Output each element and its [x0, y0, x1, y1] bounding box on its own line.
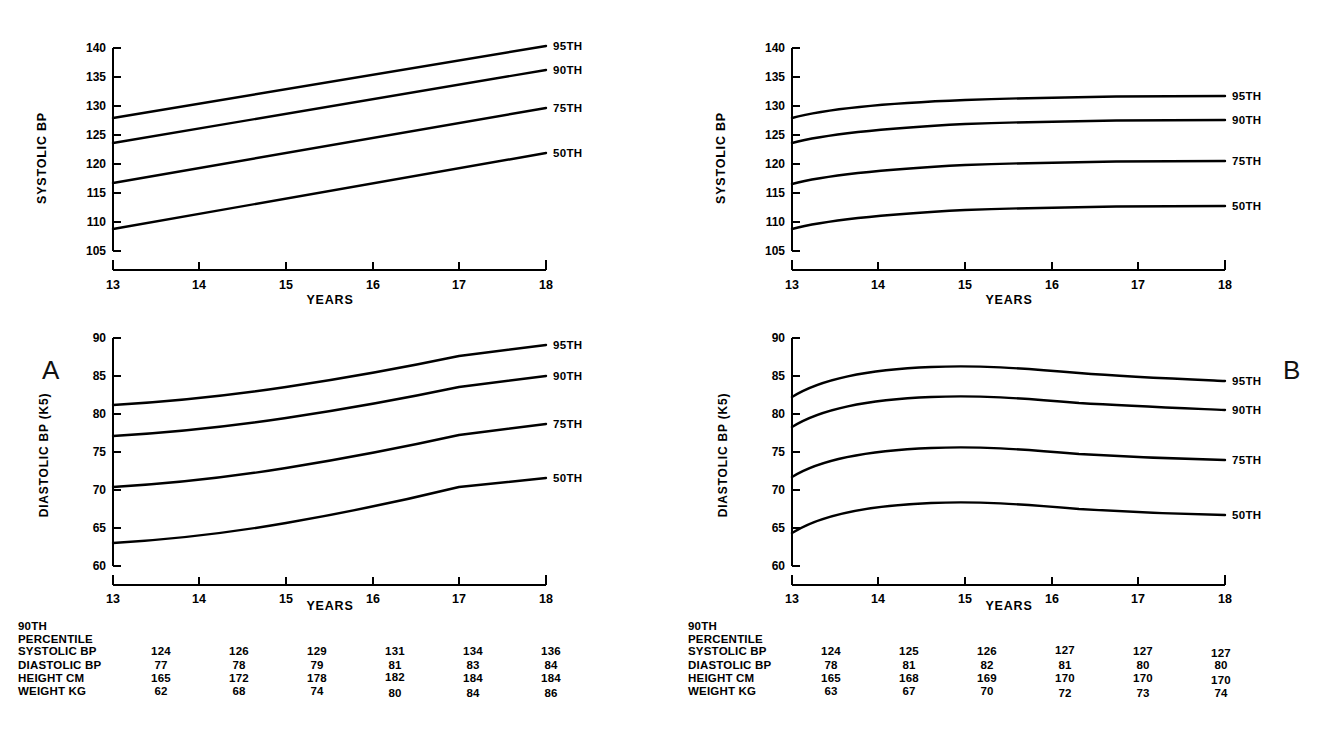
y-tick-label: 80	[93, 407, 107, 421]
row-label-systolic: SYSTOLIC BP	[688, 645, 792, 658]
y-tick-label: 140	[86, 41, 106, 55]
x-tick-label: 15	[279, 278, 293, 292]
x-tick-label: 13	[785, 592, 799, 606]
x-tick-label: 15	[279, 592, 293, 606]
panel-a: A SYSTOLIC BP 105 110 115 120 125 130 13…	[0, 0, 669, 738]
series-line-90th	[792, 396, 1225, 427]
y-tick-label: 115	[87, 186, 107, 200]
table-cell: 62	[122, 685, 200, 698]
table-cell: 127	[1104, 645, 1182, 658]
table-cell: 124	[122, 645, 200, 658]
table-cell: 165	[122, 672, 200, 685]
x-axis-label: YEARS	[985, 599, 1032, 610]
y-axis-label: DIASTOLIC BP (K5)	[716, 393, 730, 518]
series-line-75th	[113, 424, 546, 487]
data-table-panel-a: 90TH PERCENTILE SYSTOLIC BP 124 126 129 …	[18, 620, 590, 699]
table-cell: 134	[434, 645, 512, 658]
table-cell: 184	[434, 672, 512, 685]
y-tick-label: 90	[772, 331, 786, 345]
table-cell: 70	[948, 685, 1026, 698]
table-title-line1: 90TH	[18, 620, 590, 633]
table-cell: 67	[870, 685, 948, 698]
x-tick-label: 18	[539, 592, 553, 606]
series-label-75th: 75TH	[1232, 454, 1261, 466]
y-tick-label: 60	[772, 559, 786, 573]
table-cell: 84	[434, 687, 512, 700]
table-cell: 127	[1182, 647, 1260, 660]
chart-svg-panel-a-diastolic: DIASTOLIC BP (K5) 60 65 70 75 80 85 90	[0, 305, 640, 610]
x-tick-label: 14	[192, 278, 206, 292]
table-cell: 184	[512, 672, 590, 685]
table-cell: 81	[870, 659, 948, 672]
table-cell: 81	[356, 659, 434, 672]
table-title-line2: PERCENTILE	[688, 633, 1260, 646]
y-axis-ticks	[792, 48, 800, 251]
table-cell: 125	[870, 645, 948, 658]
y-tick-label: 90	[93, 331, 107, 345]
x-tick-label: 17	[452, 278, 466, 292]
series-label-95th: 95TH	[553, 40, 582, 52]
table-cell: 80	[356, 687, 434, 700]
series-line-90th	[113, 376, 546, 436]
data-table-panel-b: 90TH PERCENTILE SYSTOLIC BP 124 125 126 …	[688, 620, 1260, 699]
series-line-50th	[113, 153, 546, 229]
x-tick-label: 14	[871, 278, 885, 292]
series-label-75th: 75TH	[1232, 155, 1261, 167]
x-tick-label: 13	[785, 278, 799, 292]
x-tick-label: 13	[106, 278, 120, 292]
table-cell: 165	[792, 672, 870, 685]
x-axis-ticks	[792, 575, 1225, 585]
y-tick-label: 110	[87, 215, 107, 229]
series-line-50th	[113, 478, 546, 543]
x-tick-label: 16	[366, 592, 380, 606]
y-tick-label: 60	[93, 559, 107, 573]
y-tick-label: 120	[86, 157, 106, 171]
y-tick-label: 75	[93, 445, 107, 459]
y-tick-label: 80	[772, 407, 786, 421]
y-tick-label: 140	[765, 41, 785, 55]
x-tick-label: 14	[871, 592, 885, 606]
table-cell: 126	[200, 645, 278, 658]
series-label-75th: 75TH	[553, 102, 582, 114]
table-cell: 68	[200, 685, 278, 698]
x-tick-label: 17	[1131, 592, 1145, 606]
x-tick-label: 17	[452, 592, 466, 606]
y-tick-label: 85	[772, 369, 786, 383]
y-axis-label: DIASTOLIC BP (K5)	[37, 393, 51, 518]
x-axis-ticks	[113, 260, 546, 270]
chart-svg-panel-b-diastolic: DIASTOLIC BP (K5) 60 65 70 75 80 85 90	[679, 305, 1319, 610]
table-cell: 168	[870, 672, 948, 685]
x-axis-ticks	[792, 260, 1225, 270]
table-cell: 74	[278, 685, 356, 698]
table-cell: 170	[1026, 672, 1104, 685]
x-axis-label: YEARS	[306, 599, 353, 610]
x-axis-ticks	[113, 575, 546, 585]
table-title-line2: PERCENTILE	[18, 633, 590, 646]
series-label-50th: 50TH	[1232, 200, 1261, 212]
row-label-weight: WEIGHT KG	[688, 685, 792, 698]
series-label-95th: 95TH	[1232, 375, 1261, 387]
y-axis-label: SYSTOLIC BP	[714, 112, 728, 204]
table-cell: 78	[200, 659, 278, 672]
blood-pressure-figure: A SYSTOLIC BP 105 110 115 120 125 130 13…	[0, 0, 1338, 738]
row-label-diastolic: DIASTOLIC BP	[18, 659, 122, 672]
table-cell: 82	[948, 659, 1026, 672]
table-cell: 172	[200, 672, 278, 685]
table-cell: 84	[512, 659, 590, 672]
table-cell: 80	[1182, 659, 1260, 672]
table-cell: 86	[512, 687, 590, 700]
series-label-50th: 50TH	[553, 147, 582, 159]
table-cell: 126	[948, 645, 1026, 658]
table-cell: 80	[1104, 659, 1182, 672]
x-tick-label: 16	[1045, 592, 1059, 606]
row-label-height: HEIGHT CM	[18, 672, 122, 685]
series-line-75th	[113, 108, 546, 183]
row-label-weight: WEIGHT KG	[18, 685, 122, 698]
y-tick-label: 105	[86, 244, 106, 258]
x-tick-label: 15	[958, 278, 972, 292]
y-tick-label: 65	[93, 521, 107, 535]
y-tick-label: 65	[772, 521, 786, 535]
series-label-90th: 90TH	[1232, 114, 1261, 126]
table-cell: 83	[434, 659, 512, 672]
y-tick-label: 125	[765, 128, 785, 142]
